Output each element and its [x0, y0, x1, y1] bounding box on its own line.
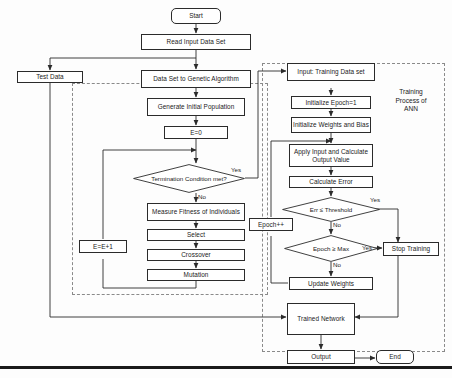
node-crossover[interactable]: Crossover [147, 249, 245, 261]
node-read-input-data-set[interactable]: Read Input Data Set [141, 34, 251, 50]
edge-label-epoch-no: No [333, 261, 341, 268]
node-measure-fitness[interactable]: Measure Fitness of Individuals [147, 203, 245, 221]
node-update-weights[interactable]: Update Weights [289, 277, 373, 290]
edge-label-err-no: No [333, 221, 341, 228]
node-termination-condition-label: Termination Condition met? [133, 164, 245, 193]
node-generate-initial-population[interactable]: Generate Initial Population [147, 98, 245, 116]
node-stop-training[interactable]: Stop Training [383, 242, 439, 256]
node-initialize-epoch[interactable]: Initialize Epoch=1 [291, 96, 371, 109]
edge-label-termination-yes: Yes [231, 166, 241, 173]
edge-label-termination-no: No [198, 193, 206, 200]
edge-label-epoch-yes: Yes [362, 244, 372, 251]
node-trained-network[interactable]: Trained Network [287, 303, 355, 335]
node-initialize-weights-and-bias[interactable]: Initialize Weights and Bias [291, 117, 371, 133]
node-test-data[interactable]: Test Data [17, 71, 83, 83]
node-select[interactable]: Select [147, 229, 245, 241]
node-data-set-to-genetic-algorithm[interactable]: Data Set to Genetic Algorithm [141, 70, 251, 88]
edge-label-err-yes: Yes [370, 196, 380, 203]
node-calculate-error[interactable]: Calculate Error [289, 176, 373, 188]
node-start[interactable]: Start [171, 8, 221, 24]
node-e-zero[interactable]: E=0 [164, 126, 228, 139]
node-mutation[interactable]: Mutation [147, 269, 245, 281]
node-apply-input-calculate-output[interactable]: Apply Input and Calculate Output Value [289, 144, 373, 167]
node-end[interactable]: End [376, 350, 414, 364]
node-err-threshold[interactable]: Err ≤ Threshold [282, 197, 380, 222]
node-e-increment[interactable]: E=E+1 [79, 240, 127, 253]
node-err-threshold-label: Err ≤ Threshold [282, 197, 380, 222]
node-output[interactable]: Output [287, 350, 355, 364]
ann-region-label: Training Process of ANN [382, 88, 440, 114]
flowchart-canvas: Start Read Input Data Set Test Data Data… [0, 0, 452, 378]
bottom-rule [0, 366, 452, 369]
node-input-training-data-set[interactable]: Input: Training Data set [287, 63, 375, 81]
node-termination-condition[interactable]: Termination Condition met? [133, 164, 245, 193]
node-epoch-increment[interactable]: Epoch++ [249, 218, 293, 231]
